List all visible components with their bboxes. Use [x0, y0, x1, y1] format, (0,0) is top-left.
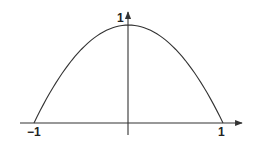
x-tick-label-neg1: −1: [27, 125, 41, 139]
x-tick-label-1: 1: [218, 125, 225, 139]
y-tick-label-1: 1: [117, 11, 124, 25]
parabola-chart: −1 1 1: [0, 0, 256, 146]
